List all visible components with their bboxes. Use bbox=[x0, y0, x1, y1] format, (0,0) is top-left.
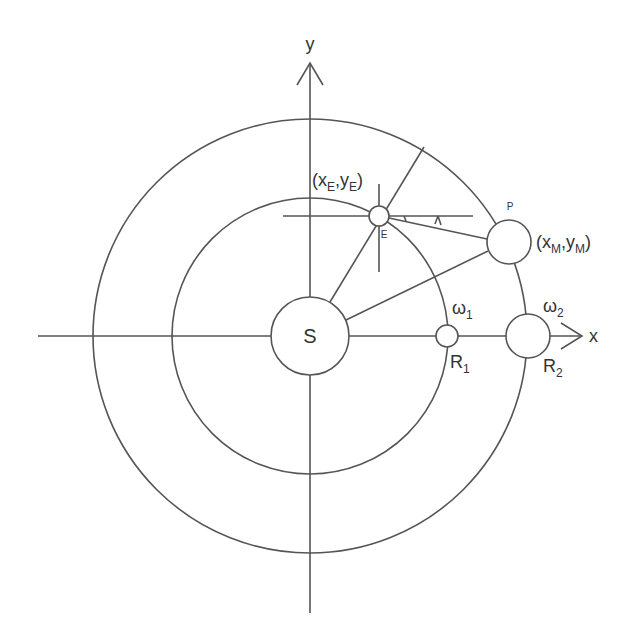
orbit-diagram: S E (xE,yE) P (xM,yM) ω1 R1 ω2 R2 x y bbox=[0, 0, 634, 639]
outer-orbit-point-circle bbox=[506, 314, 550, 358]
y-axis-label: y bbox=[306, 34, 315, 54]
earth-mars-line bbox=[389, 218, 487, 239]
inner-orbit-point-circle bbox=[436, 325, 458, 347]
earth-label: E bbox=[381, 229, 388, 240]
earth-circle bbox=[369, 206, 389, 226]
omega1-label: ω1 bbox=[452, 298, 473, 322]
angle-mark-lambda bbox=[435, 216, 441, 225]
sun-label: S bbox=[303, 325, 316, 347]
r1-label: R1 bbox=[450, 352, 470, 376]
mars-coordinates: (xM,yM) bbox=[536, 232, 591, 256]
mars-circle bbox=[487, 220, 531, 264]
omega2-label: ω2 bbox=[543, 296, 564, 320]
earth-coordinates: (xE,yE) bbox=[312, 170, 363, 194]
r2-label: R2 bbox=[543, 356, 563, 380]
x-axis-label: x bbox=[589, 326, 598, 346]
mars-label: P bbox=[507, 201, 514, 212]
